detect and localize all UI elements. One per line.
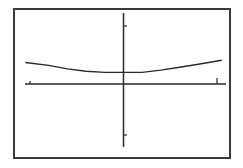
graph-plot — [0, 0, 243, 168]
